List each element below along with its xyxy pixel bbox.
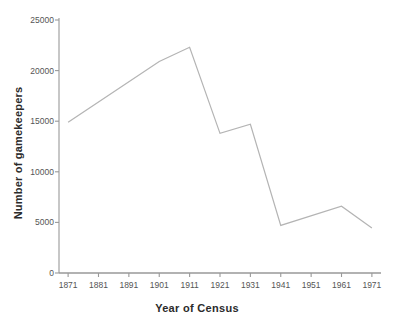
line-chart: 0500010000150002000025000 Number of game… — [0, 0, 394, 322]
axes-group — [59, 18, 381, 273]
plot-area — [0, 0, 394, 322]
x-tick-label: 1891 — [119, 280, 138, 290]
x-tick-label: 1961 — [332, 280, 351, 290]
x-tick-label: 1941 — [271, 280, 290, 290]
x-tick-label: 1921 — [211, 280, 230, 290]
gamekeepers-line — [68, 47, 372, 228]
y-axis-title: Number of gamekeepers — [12, 63, 24, 243]
data-series-group — [68, 47, 372, 228]
x-tick-label: 1971 — [362, 280, 381, 290]
x-tick-label: 1931 — [241, 280, 260, 290]
x-tick-label: 1871 — [59, 280, 78, 290]
x-tick-label: 1951 — [302, 280, 321, 290]
y-axis-ticks — [55, 20, 59, 273]
x-tick-label: 1901 — [150, 280, 169, 290]
x-tick-label: 1911 — [180, 280, 198, 290]
x-axis-title: Year of Census — [0, 302, 394, 314]
x-tick-label: 1881 — [89, 280, 108, 290]
